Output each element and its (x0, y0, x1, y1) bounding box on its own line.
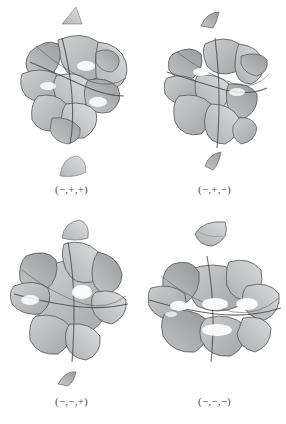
surface-render-bottom-right (143, 212, 286, 395)
figure-top-right: (−,+,−) (143, 0, 286, 212)
figure-plate: (−,+,+) (0, 0, 286, 424)
fragment-bottom-cap (60, 156, 86, 177)
figure-bottom-left: (−,−,+) (0, 212, 143, 424)
caption-bottom-right: (−,−,−) (143, 395, 286, 407)
fragment-bottom-sliver (205, 152, 221, 170)
figure-top-left: (−,+,+) (0, 0, 143, 212)
fragment-top-sliver (62, 7, 82, 24)
fragment-top-sliver (201, 12, 219, 28)
surface-body (148, 256, 281, 362)
figure-bottom-right: (−,−,−) (143, 212, 286, 424)
surface-body (10, 242, 128, 362)
caption-top-left: (−,+,+) (0, 183, 143, 195)
fragment-top-crescent (195, 222, 227, 246)
surface-body (164, 38, 269, 148)
caption-bottom-left: (−,−,+) (0, 395, 143, 407)
caption-top-right: (−,+,−) (143, 183, 286, 195)
fragment-top-cap (62, 220, 88, 240)
surface-render-top-left (0, 0, 143, 183)
fragment-bottom-sliver (58, 372, 76, 386)
surface-body (21, 35, 127, 144)
surface-render-bottom-left (0, 212, 143, 395)
surface-render-top-right (143, 0, 286, 183)
